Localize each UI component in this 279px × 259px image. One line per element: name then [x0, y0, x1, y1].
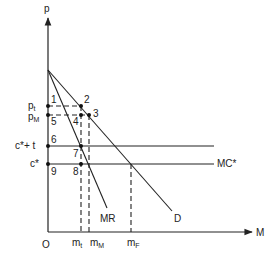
demand-curve — [48, 70, 172, 211]
m-m-label: mM — [90, 237, 104, 249]
point-8 — [79, 162, 83, 166]
c-star-label: c* — [30, 158, 39, 169]
point-9 — [46, 162, 50, 166]
point-8-label: 8 — [73, 166, 79, 177]
x-axis-label: M — [256, 227, 264, 238]
demand-label: D — [174, 213, 181, 224]
p-m-label: pM — [28, 111, 40, 123]
point-7-label: 7 — [73, 148, 79, 159]
mr-curve — [48, 70, 107, 208]
m-f-label: mF — [127, 237, 140, 249]
point-2 — [79, 104, 83, 108]
point-3-label: 3 — [93, 108, 99, 119]
point-4-label: 4 — [73, 116, 79, 127]
point-1 — [46, 104, 50, 108]
mc-star-label: MC* — [217, 158, 237, 169]
point-5 — [46, 113, 50, 117]
point-1-label: 1 — [51, 94, 57, 105]
origin-label: O — [42, 239, 50, 250]
economics-diagram: p M O D MR MC* 1 2 3 4 5 6 7 8 9 pt pM c… — [0, 0, 279, 259]
point-9-label: 9 — [51, 166, 57, 177]
point-5-label: 5 — [51, 116, 57, 127]
point-6-label: 6 — [51, 134, 57, 145]
point-4 — [79, 113, 83, 117]
point-2-label: 2 — [84, 94, 90, 105]
mr-label: MR — [100, 213, 116, 224]
m-t-label: mt — [72, 237, 82, 249]
c-star-plus-t-label: c*+ t — [15, 140, 36, 151]
point-7 — [79, 144, 83, 148]
y-axis-label: p — [44, 3, 50, 14]
point-6 — [46, 144, 50, 148]
point-3 — [87, 113, 91, 117]
